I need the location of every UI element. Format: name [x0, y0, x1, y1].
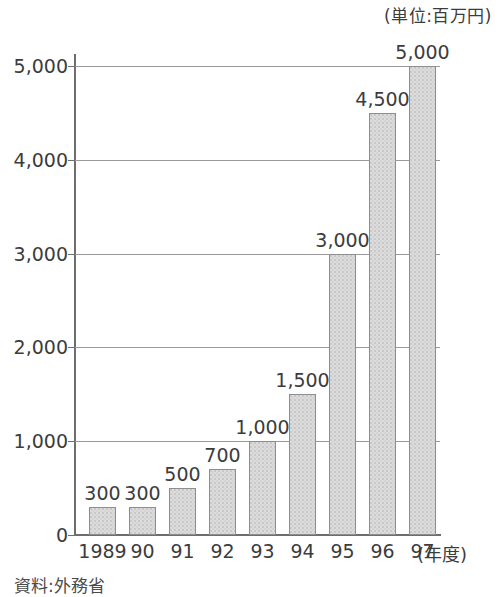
gridline — [75, 66, 440, 67]
bar-value-label: 3,000 — [315, 229, 369, 251]
bar — [169, 488, 196, 535]
y-axis-tick-label: 1,000 — [14, 430, 68, 452]
x-axis-tick-label: 94 — [290, 540, 314, 562]
bar-value-label: 1,500 — [275, 369, 329, 391]
bar-value-label: 300 — [84, 482, 120, 504]
bar-value-label: 500 — [164, 463, 200, 485]
y-axis-tick-label: 5,000 — [14, 55, 68, 77]
plot-area — [75, 66, 440, 535]
y-axis-tick — [68, 66, 75, 67]
y-axis-tick-label: 4,000 — [14, 149, 68, 171]
x-axis-tick-label: 91 — [170, 540, 194, 562]
bar — [409, 66, 436, 535]
bar — [89, 507, 116, 535]
y-axis-tick — [68, 160, 75, 161]
bar — [289, 394, 316, 535]
y-axis-tick — [68, 441, 75, 442]
bar — [209, 469, 236, 535]
bar-value-label: 700 — [204, 444, 240, 466]
bar — [129, 507, 156, 535]
y-axis-tick-label: 2,000 — [14, 336, 68, 358]
source-note: 資料:外務省 — [14, 572, 105, 597]
bar-value-label: 5,000 — [395, 41, 449, 63]
x-axis-tick-label: 96 — [370, 540, 394, 562]
x-axis-tick-label: 1989 — [78, 540, 126, 562]
y-axis-tick-label: 0 — [56, 524, 68, 546]
x-axis-tick-label: 90 — [130, 540, 154, 562]
bar — [249, 441, 276, 535]
unit-annotation: (単位:百万円) — [384, 2, 492, 27]
x-axis-tick-label: 93 — [250, 540, 274, 562]
bar-value-label: 4,500 — [355, 88, 409, 110]
y-axis-tick — [68, 347, 75, 348]
x-axis-tick-label: 95 — [330, 540, 354, 562]
bar — [329, 254, 356, 535]
y-axis-tick — [68, 535, 75, 536]
bar — [369, 113, 396, 535]
y-axis-labels: 01,0002,0003,0004,0005,000 — [0, 0, 68, 590]
x-axis-unit-label: (年度) — [417, 540, 467, 566]
x-axis-tick-label: 92 — [210, 540, 234, 562]
bar-value-label: 300 — [124, 482, 160, 504]
y-axis-tick-label: 3,000 — [14, 243, 68, 265]
bar-value-label: 1,000 — [235, 416, 289, 438]
y-axis-line — [74, 54, 76, 535]
y-axis-tick — [68, 254, 75, 255]
